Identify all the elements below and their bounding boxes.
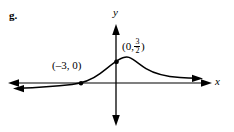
item-letter-label: g.: [9, 10, 17, 21]
point-label-y-intercept: ( 0, 3 2 ): [122, 38, 145, 56]
y-intercept-close-paren: ): [141, 41, 145, 52]
x-axis-left-arrow-icon: [8, 79, 19, 87]
point-label-x-intercept: (–3, 0): [52, 60, 81, 71]
point-marker-x-intercept: [79, 81, 83, 85]
point-marker-y-intercept: [114, 59, 119, 64]
coordinate-plane-svg: [0, 0, 234, 132]
graph-figure: g. y x (–3, 0) ( 0, 3 2 ): [0, 0, 234, 132]
y-axis-down-arrow-icon: [112, 115, 120, 126]
fraction-numerator: 3: [134, 38, 140, 46]
y-axis-up-arrow-icon: [112, 24, 120, 35]
y-intercept-fraction: 3 2: [134, 38, 140, 56]
y-intercept-x-value: 0,: [126, 41, 134, 52]
x-axis-right-arrow-icon: [201, 79, 212, 87]
y-axis-label: y: [113, 7, 118, 18]
fraction-denominator: 2: [134, 46, 140, 55]
x-axis-label: x: [215, 76, 220, 87]
